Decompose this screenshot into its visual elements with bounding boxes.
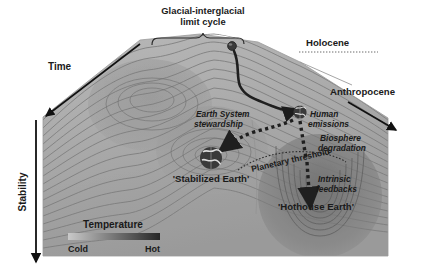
legend-gradient-bar bbox=[68, 233, 160, 240]
hothouse-earth-label: 'Hothouse Earth' bbox=[278, 201, 354, 212]
stabilized-earth-label: 'Stabilized Earth' bbox=[173, 173, 250, 184]
feedbacks-label-line2: feedbacks bbox=[316, 184, 357, 194]
stewardship-label-line2: stewardship bbox=[194, 119, 243, 129]
feedbacks-label-line1: Intrinsic bbox=[318, 174, 351, 184]
stability-landscape-figure: Glacial-interglacial limit cycle Time St… bbox=[0, 0, 435, 274]
time-axis-label: Time bbox=[48, 61, 72, 72]
stabilized-earth-globe bbox=[200, 147, 222, 169]
holocene-label: Holocene bbox=[306, 37, 349, 48]
stewardship-annotation: Earth System stewardship bbox=[194, 109, 250, 129]
limit-cycle-title-line2: limit cycle bbox=[180, 16, 225, 27]
limit-cycle-title-line1: Glacial-interglacial bbox=[161, 5, 244, 16]
state-ball bbox=[228, 42, 237, 51]
legend-max-label: Hot bbox=[145, 244, 160, 254]
human-emissions-label-line2: emissions bbox=[308, 119, 349, 129]
stability-axis-label: Stability bbox=[17, 172, 28, 211]
legend-min-label: Cold bbox=[68, 244, 88, 254]
limit-cycle-ball bbox=[228, 42, 237, 51]
anthropocene-label: Anthropocene bbox=[330, 86, 395, 97]
stewardship-label-line1: Earth System bbox=[196, 109, 250, 119]
biosphere-label-line1: Biosphere bbox=[320, 133, 361, 143]
legend-title: Temperature bbox=[83, 219, 143, 230]
human-emissions-label-line1: Human bbox=[310, 109, 338, 119]
state-ball-highlight bbox=[229, 43, 232, 45]
